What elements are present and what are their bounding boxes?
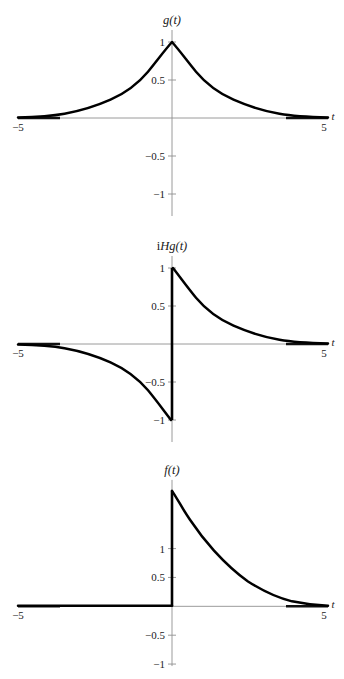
plot-title-f: f(t): [164, 463, 179, 477]
y-tick-label-neg0p5: −0.5: [145, 376, 165, 388]
x-axis-name: t: [331, 110, 335, 122]
curve-ihg-positive: [173, 268, 328, 344]
y-tick-label-1: 1: [160, 262, 166, 274]
plot-svg-f: 1 0.5 −0.5 −1 −5 5 t f(t): [0, 452, 344, 678]
x-axis-name: t: [331, 336, 335, 348]
plot-svg-ihg: 1 0.5 −0.5 −1 −5 5 t iHg(t): [0, 226, 344, 452]
y-tick-label-1: 1: [160, 36, 166, 48]
plot-title-f-args: (t): [168, 463, 180, 477]
plot-panel-g: 1 0.5 −0.5 −1 −5 5 t g(t): [0, 0, 344, 226]
y-tick-label-neg0p5: −0.5: [145, 629, 165, 641]
plot-svg-g: 1 0.5 −0.5 −1 −5 5 t g(t): [0, 0, 344, 226]
plot-title-g: g(t): [163, 13, 181, 27]
plot-title-g-args: (t): [169, 13, 181, 27]
x-tick-label-left: −5: [12, 121, 24, 133]
x-tick-label-right: 5: [321, 121, 327, 133]
y-tick-label-neg1: −1: [153, 658, 165, 670]
plot-title-ihg-main: Hg: [159, 239, 175, 253]
x-tick-label-right: 5: [321, 609, 327, 621]
x-tick-label-right: 5: [321, 347, 327, 359]
plot-title-ihg-args: (t): [175, 239, 187, 253]
y-tick-label-neg1: −1: [153, 188, 165, 200]
y-tick-label-0p5: 0.5: [151, 300, 165, 312]
plot-panel-f: 1 0.5 −0.5 −1 −5 5 t f(t): [0, 452, 344, 678]
y-tick-label-0p5: 0.5: [151, 74, 165, 86]
plot-title-ihg: iHg(t): [157, 239, 188, 253]
x-tick-label-left: −5: [12, 609, 24, 621]
y-tick-label-1: 1: [160, 543, 165, 555]
curve-f-decay-branch: [172, 491, 328, 606]
y-tick-label-0p5: 0.5: [151, 571, 165, 583]
x-axis-name: t: [331, 598, 335, 610]
y-tick-label-neg1: −1: [153, 414, 165, 426]
x-tick-label-left: −5: [12, 347, 24, 359]
figure-analytic-signal: 1 0.5 −0.5 −1 −5 5 t g(t): [0, 0, 344, 679]
plot-panel-ihg: 1 0.5 −0.5 −1 −5 5 t iHg(t): [0, 226, 344, 452]
y-tick-label-neg0p5: −0.5: [145, 150, 165, 162]
